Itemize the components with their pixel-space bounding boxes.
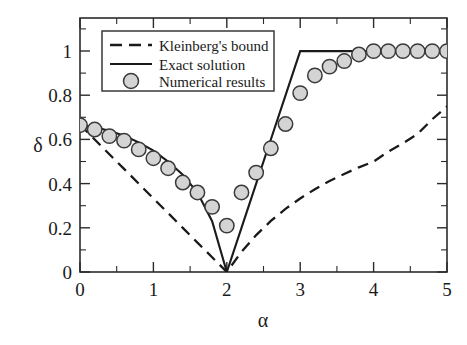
data-point-marker bbox=[337, 54, 351, 68]
data-point-marker bbox=[102, 129, 116, 143]
x-tick-label-1: 1 bbox=[149, 279, 159, 300]
x-tick-label-5: 5 bbox=[442, 279, 452, 300]
legend-swatch-circle-marker bbox=[124, 74, 139, 89]
y-tick-label-1: 0.2 bbox=[48, 218, 72, 239]
data-point-marker bbox=[87, 122, 101, 136]
data-point-marker bbox=[117, 133, 131, 147]
data-point-marker bbox=[220, 218, 234, 232]
data-point-marker bbox=[176, 175, 190, 189]
legend-label-exact-solution: Exact solution bbox=[159, 57, 246, 73]
data-point-marker bbox=[132, 142, 146, 156]
data-point-marker bbox=[205, 200, 219, 214]
data-point-marker bbox=[234, 185, 248, 199]
data-point-marker bbox=[249, 165, 263, 179]
data-point-marker bbox=[190, 185, 204, 199]
data-point-marker bbox=[352, 47, 366, 61]
y-tick-label-2: 0.4 bbox=[48, 174, 72, 195]
data-point-marker bbox=[366, 44, 380, 58]
data-point-marker bbox=[161, 161, 175, 175]
data-point-marker bbox=[264, 141, 278, 155]
y-tick-label-3: 0.6 bbox=[48, 129, 72, 150]
x-tick-label-3: 3 bbox=[295, 279, 305, 300]
chart-svg: 0 0.2 0.4 0.6 0.8 1 0 1 2 3 4 5 δ α Klei… bbox=[0, 0, 467, 345]
y-tick-label-4: 0.8 bbox=[48, 85, 72, 106]
x-axis-title: α bbox=[258, 309, 269, 331]
y-tick-label-5: 1 bbox=[63, 41, 73, 62]
data-point-marker bbox=[381, 44, 395, 58]
series-kleinbergs-bound bbox=[80, 106, 447, 272]
data-point-marker bbox=[146, 151, 160, 165]
chart-figure: 0 0.2 0.4 0.6 0.8 1 0 1 2 3 4 5 δ α Klei… bbox=[0, 0, 467, 345]
data-point-marker bbox=[440, 44, 454, 58]
data-point-marker bbox=[278, 117, 292, 131]
data-point-marker bbox=[308, 68, 322, 82]
data-point-marker bbox=[396, 44, 410, 58]
data-point-marker bbox=[410, 44, 424, 58]
legend: Kleinberg's bound Exact solution Numeric… bbox=[102, 31, 274, 91]
y-tick-label-0: 0 bbox=[63, 262, 73, 283]
data-point-marker bbox=[73, 118, 87, 132]
data-point-marker bbox=[322, 59, 336, 73]
legend-label-kleinbergs-bound: Kleinberg's bound bbox=[159, 38, 269, 54]
x-tick-label-0: 0 bbox=[75, 279, 85, 300]
x-tick-label-2: 2 bbox=[222, 279, 232, 300]
legend-label-numerical-results: Numerical results bbox=[159, 74, 265, 90]
data-point-marker bbox=[425, 44, 439, 58]
data-point-marker bbox=[293, 86, 307, 100]
y-axis-title: δ bbox=[33, 134, 42, 156]
x-tick-label-4: 4 bbox=[369, 279, 379, 300]
